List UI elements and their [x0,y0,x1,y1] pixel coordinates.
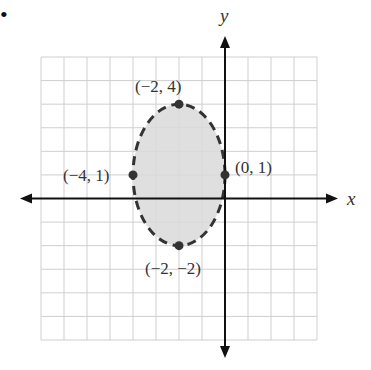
y-axis-down-arrow-icon [220,346,230,358]
point-label: (−2, −2) [145,259,201,278]
point-marker [175,100,184,109]
point-label: (−2, 4) [135,77,181,96]
x-axis-right-arrow-icon [326,194,338,204]
problem-bullet: • [0,2,8,27]
y-axis-up-arrow-icon [220,36,230,48]
point-marker [175,241,184,250]
point-marker [129,170,138,179]
point-label: (0, 1) [235,158,272,177]
x-axis-label: x [346,188,356,209]
point-marker [221,170,230,179]
x-axis-left-arrow-icon [20,194,32,204]
ellipse-region [133,104,225,246]
point-label: (−4, 1) [63,166,109,185]
y-axis-label: y [218,5,229,26]
ellipse-graph: • xy (−2, 4)(−4, 1)(0, 1)(−2, −2) [0,0,371,370]
